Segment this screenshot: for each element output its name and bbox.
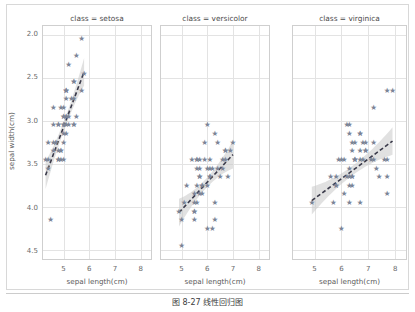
- panel-title-setosa: class = setosa: [42, 13, 152, 24]
- y-tick-label: 2.0: [18, 29, 38, 39]
- scatter-panel-virginica: ★★★★★★★★★★★★★★★★★★★★★★★★★★★★★★★★★★★★★★★★…: [292, 25, 407, 260]
- x-tick-label: 5: [57, 264, 71, 274]
- y-tick-label: 3.0: [18, 116, 38, 126]
- x-tick-label: 7: [108, 264, 122, 274]
- caption-divider: [6, 293, 409, 294]
- y-tick-label: 4.5: [18, 246, 38, 256]
- y-tick-label: 3.5: [18, 159, 38, 169]
- x-tick-label: 5: [175, 264, 189, 274]
- panel-title-virginica: class = virginica: [292, 13, 407, 24]
- x-axis-label-setosa: sepal length(cm): [42, 276, 152, 287]
- figure-root: sepal width(cm) 4.54.03.53.02.52.0 class…: [0, 0, 415, 312]
- y-tick-label: 2.5: [18, 72, 38, 82]
- x-tick-label: 8: [252, 264, 266, 274]
- scatter-panel-versicolor: ★★★★★★★★★★★★★★★★★★★★★★★★★★★★★★★★★★★★★★★★…: [160, 25, 270, 260]
- x-tick-label: 6: [82, 264, 96, 274]
- x-tick-label: 6: [200, 264, 214, 274]
- x-tick-label: 7: [361, 264, 375, 274]
- panel-title-versicolor: class = versicolor: [160, 13, 270, 24]
- x-axis-label-versicolor: sepal length(cm): [160, 276, 270, 287]
- y-tick-label: 4.0: [18, 203, 38, 213]
- figure-caption: 图 8-27 线性回归图: [0, 296, 415, 310]
- y-axis-label: sepal width(cm): [6, 96, 18, 186]
- x-tick-label: 8: [134, 264, 148, 274]
- x-tick-label: 7: [226, 264, 240, 274]
- x-tick-label: 6: [334, 264, 348, 274]
- scatter-panel-setosa: ★★★★★★★★★★★★★★★★★★★★★★★★★★★★★★★★★★★★★★★★…: [42, 25, 152, 260]
- x-tick-label: 5: [308, 264, 322, 274]
- x-tick-label: 8: [388, 264, 402, 274]
- x-axis-label-virginica: sepal length(cm): [292, 276, 407, 287]
